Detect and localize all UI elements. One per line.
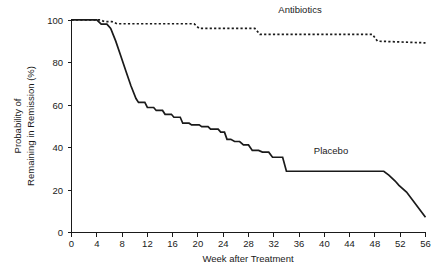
x-tick-label-24: 24 — [218, 238, 229, 249]
x-tick-label-56: 56 — [420, 238, 431, 249]
x-tick-label-28: 28 — [243, 238, 254, 249]
x-tick-label-52: 52 — [395, 238, 406, 249]
y-axis-title-line2: Remaining in Remission (%) — [25, 66, 36, 186]
series-annotation-placebo: Placebo — [314, 145, 348, 156]
x-tick-label-36: 36 — [294, 238, 305, 249]
y-tick-label-100: 100 — [47, 15, 63, 26]
series-line-placebo — [72, 20, 426, 217]
x-tick-label-16: 16 — [167, 238, 178, 249]
y-axis-tick-labels: 0 20 40 60 80 100 — [47, 15, 63, 238]
x-tick-label-48: 48 — [370, 238, 381, 249]
x-axis-ticks — [72, 233, 426, 238]
y-tick-label-20: 20 — [52, 185, 63, 196]
series-annotation-antibiotics: Antibiotics — [278, 4, 322, 15]
figure-panel: 0 20 40 60 80 100 0 4 — [0, 0, 442, 276]
y-tick-label-60: 60 — [52, 100, 63, 111]
x-tick-label-0: 0 — [69, 238, 74, 249]
x-axis-title: Week after Treatment — [202, 253, 294, 264]
x-tick-label-12: 12 — [142, 238, 153, 249]
y-axis-ticks — [68, 21, 72, 233]
series-line-antibiotics — [72, 20, 426, 43]
x-tick-label-32: 32 — [269, 238, 280, 249]
x-tick-label-20: 20 — [193, 238, 204, 249]
y-tick-label-0: 0 — [58, 227, 63, 238]
x-tick-label-44: 44 — [344, 238, 355, 249]
y-tick-label-40: 40 — [52, 142, 63, 153]
kaplan-meier-chart: 0 20 40 60 80 100 0 4 — [0, 0, 442, 276]
y-tick-label-80: 80 — [52, 57, 63, 68]
x-tick-label-4: 4 — [94, 238, 99, 249]
y-axis-title-line1: Probability of — [12, 98, 23, 153]
x-tick-label-40: 40 — [319, 238, 330, 249]
x-axis-tick-labels: 0 4 8 12 16 20 24 28 32 36 40 44 48 52 5… — [69, 238, 431, 249]
x-tick-label-8: 8 — [119, 238, 124, 249]
